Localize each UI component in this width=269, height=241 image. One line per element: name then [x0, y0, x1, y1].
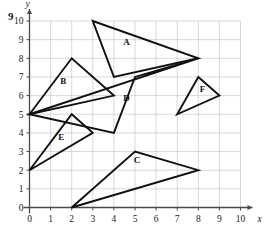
- shape-label-a: A: [123, 37, 130, 47]
- y-tick-label: 4: [19, 128, 24, 138]
- y-tick-label: 7: [19, 72, 24, 82]
- x-axis-label: x: [257, 214, 263, 224]
- shape-label-c: C: [134, 155, 141, 165]
- worksheet-figure: 9 012345678910012345678910 ABCDEF x y: [0, 0, 269, 241]
- x-tick-label: 5: [133, 214, 138, 224]
- y-tick-label: 8: [19, 54, 24, 64]
- coordinate-grid-plot: 012345678910012345678910 ABCDEF x y: [0, 0, 269, 241]
- y-tick-label: 9: [19, 35, 24, 45]
- y-axis-label: y: [24, 0, 30, 9]
- y-tick-label: 10: [14, 16, 24, 26]
- x-tick-label: 10: [236, 214, 246, 224]
- x-tick-label: 6: [154, 214, 159, 224]
- shape-label-e: E: [58, 132, 64, 142]
- x-axis-arrow: [248, 205, 253, 210]
- shape-label-d: D: [123, 93, 130, 103]
- x-tick-label: 4: [112, 214, 117, 224]
- y-tick-label: 3: [19, 147, 24, 157]
- y-axis-arrow: [27, 9, 32, 14]
- shape-label-f: F: [200, 84, 206, 94]
- y-tick-label: 1: [19, 184, 24, 194]
- x-tick-label: 2: [69, 214, 74, 224]
- x-tick-label: 7: [175, 214, 180, 224]
- y-tick-label: 0: [19, 203, 24, 213]
- grid-lines: [30, 21, 241, 208]
- shape-label-b: B: [60, 76, 66, 86]
- x-tick-label: 0: [27, 214, 32, 224]
- y-tick-label: 5: [19, 110, 24, 120]
- shape-a: [93, 21, 199, 77]
- y-tick-label: 6: [19, 91, 24, 101]
- y-tick-label: 2: [19, 166, 24, 176]
- x-tick-label: 8: [196, 214, 201, 224]
- x-tick-label: 1: [48, 214, 53, 224]
- x-tick-label: 9: [217, 214, 222, 224]
- tick-labels: 012345678910012345678910: [14, 16, 246, 223]
- x-tick-label: 3: [90, 214, 95, 224]
